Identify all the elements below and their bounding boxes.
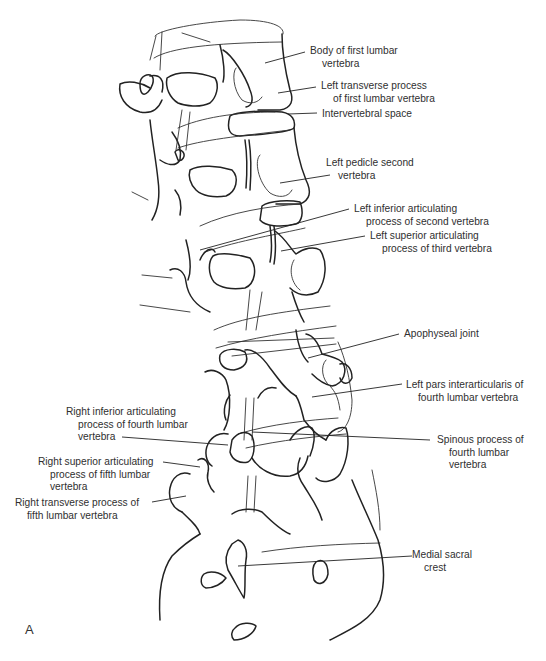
vertebra-l4: [205, 306, 352, 440]
label-apophyseal-joint: Apophyseal joint: [404, 328, 479, 341]
label-line: Medial sacral: [412, 549, 472, 562]
leader-body-l1: [265, 52, 305, 63]
vertebra-l2: [132, 110, 309, 220]
vertebra-l5: [170, 396, 349, 534]
label-right-inferior-articulating-l4: Right inferior articulating process of f…: [66, 406, 188, 444]
label-line: Left pedicle second: [326, 157, 414, 170]
label-line: Right transverse process of: [15, 497, 139, 510]
leader-medial-sacral-crest: [238, 556, 412, 566]
label-spinous-l4: Spinous process of fourth lumbar vertebr…: [437, 434, 524, 472]
vertebra-l1: [120, 20, 292, 113]
leader-right-transverse-l5: [152, 496, 186, 502]
label-line: Left pars interarticularis of: [406, 379, 523, 392]
label-line: vertebra: [326, 170, 414, 183]
label-line: fourth lumbar: [437, 447, 524, 460]
label-line: Right superior articulating: [38, 456, 154, 469]
leader-left-transverse-l1: [278, 87, 316, 93]
leader-intervertebral-space: [288, 113, 317, 114]
label-line: crest: [412, 562, 472, 575]
label-line: of first lumbar vertebra: [321, 93, 435, 106]
label-line: vertebra: [66, 431, 188, 444]
label-line: Spinous process of: [437, 434, 524, 447]
label-right-transverse-l5: Right transverse process of fifth lumbar…: [15, 497, 139, 522]
panel-letter: A: [25, 622, 34, 637]
label-line: Apophyseal joint: [404, 328, 479, 341]
label-line: Left transverse process: [321, 80, 435, 93]
label-line: Intervertebral space: [322, 108, 412, 121]
leader-left-pars-l4: [312, 384, 402, 397]
label-line: process of second vertebra: [354, 216, 489, 229]
label-left-pars-l4: Left pars interarticularis of fourth lum…: [406, 379, 523, 404]
label-medial-sacral-crest: Medial sacral crest: [412, 549, 472, 574]
leader-left-inferior-articulating-second: [200, 209, 349, 250]
label-line: process of third vertebra: [370, 243, 492, 256]
leader-left-superior-articulating-third: [281, 236, 365, 251]
label-line: Left inferior articulating: [354, 203, 489, 216]
label-line: fourth lumbar vertebra: [406, 392, 523, 405]
label-line: fifth lumbar vertebra: [15, 510, 139, 523]
label-left-superior-articulating-third: Left superior articulating process of th…: [370, 230, 492, 255]
label-line: vertebra: [437, 459, 524, 472]
label-left-pedicle-second: Left pedicle second vertebra: [326, 157, 414, 182]
leader-right-superior-articulating-l5: [163, 462, 200, 467]
label-line: Right inferior articulating: [66, 406, 188, 419]
label-line: process of fifth lumbar: [38, 469, 154, 482]
label-line: vertebra: [38, 481, 154, 494]
label-left-inferior-articulating-second: Left inferior articulating process of se…: [354, 203, 489, 228]
label-intervertebral-space: Intervertebral space: [322, 108, 412, 121]
sacrum: [160, 470, 384, 640]
leader-spinous-l4: [252, 432, 430, 440]
lumbar-spine-figure: Body of first lumbar vertebra Left trans…: [0, 0, 546, 661]
label-line: vertebra: [310, 58, 398, 71]
label-left-transverse-l1: Left transverse process of first lumbar …: [321, 80, 435, 105]
label-line: Body of first lumbar: [310, 45, 398, 58]
label-right-superior-articulating-l5: Right superior articulating process of f…: [38, 456, 154, 494]
label-line: Left superior articulating: [370, 230, 492, 243]
label-body-l1: Body of first lumbar vertebra: [310, 45, 398, 70]
label-line: process of fourth lumbar: [66, 419, 188, 432]
